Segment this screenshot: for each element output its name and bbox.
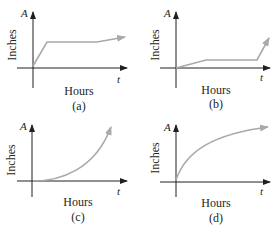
x-axis-var: t	[260, 71, 264, 83]
x-axis-label: Hours	[201, 83, 231, 97]
panel-caption: (c)	[71, 210, 84, 224]
panel-d: A Inches t Hours (d)	[148, 121, 270, 225]
y-axis-label: Inches	[4, 144, 18, 176]
y-axis-var: A	[19, 120, 27, 132]
panel-caption: (a)	[72, 99, 85, 113]
y-axis-label: Inches	[148, 142, 162, 174]
x-axis-label: Hours	[63, 195, 93, 209]
panel-b: A Inches t Hours (b)	[148, 7, 270, 111]
panel-caption: (b)	[209, 97, 223, 111]
y-axis-var: A	[163, 121, 171, 133]
x-axis-label: Hours	[64, 84, 94, 98]
growth-curve	[176, 127, 268, 180]
x-axis-var: t	[117, 185, 121, 197]
growth-curve	[33, 127, 111, 181]
growth-curve	[33, 37, 125, 66]
x-axis-var: t	[260, 185, 264, 197]
figure-canvas: A Inches t Hours (a) A Inches t Hours (b…	[0, 0, 273, 233]
growth-curve	[176, 38, 269, 68]
y-axis-var: A	[163, 7, 171, 19]
x-axis-label: Hours	[201, 196, 231, 210]
panel-a: A Inches t Hours (a)	[5, 7, 127, 113]
x-axis-var: t	[117, 73, 121, 85]
y-axis-var: A	[20, 7, 28, 19]
y-axis-label: Inches	[5, 29, 19, 61]
panel-c: A Inches t Hours (c)	[4, 120, 127, 224]
panel-caption: (d)	[209, 211, 223, 225]
y-axis-label: Inches	[148, 29, 162, 61]
